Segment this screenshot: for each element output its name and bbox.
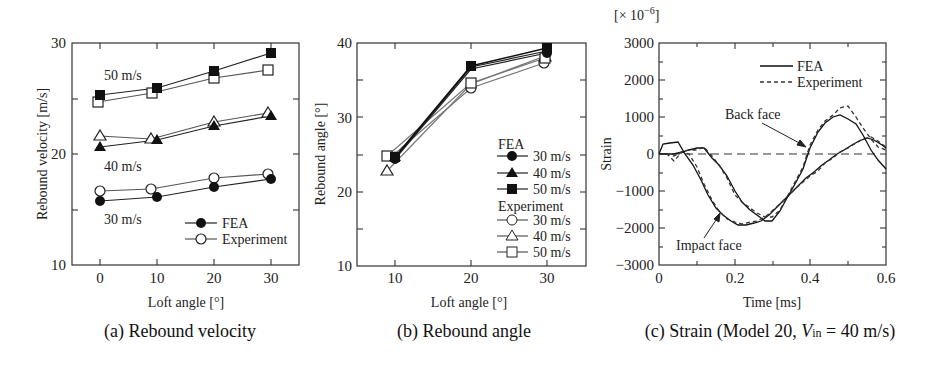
curve-fea-back-face bbox=[659, 115, 886, 221]
chart-c-unit: [× 10−6] bbox=[614, 5, 659, 23]
chart-a-xtick: 30 bbox=[264, 270, 279, 286]
chart-b-ytick: 40 bbox=[337, 35, 352, 51]
chart-c-caption: (c) Strain (Model 20, Vin = 40 m/s) bbox=[645, 321, 895, 342]
chart-c-ytick: 0 bbox=[647, 146, 655, 162]
chart-b-ytick: 10 bbox=[337, 258, 352, 274]
legend-fea: FEA bbox=[222, 216, 249, 231]
chart-c-ylabel: Strain bbox=[599, 137, 614, 170]
legend-fea-30: 30 m/s bbox=[533, 149, 571, 164]
chart-b-ytick: 20 bbox=[337, 184, 352, 200]
legend-exp-50: 50 m/s bbox=[533, 245, 571, 260]
chart-b-legend: FEA 30 m/s 40 m/s 50 m/s Experiment 30 m… bbox=[497, 137, 571, 260]
chart-a-rebound-velocity: 30 20 10 0 10 20 30 Loft angle [°] Rebou… bbox=[35, 35, 299, 342]
chart-c-xlabel: Time [ms] bbox=[743, 295, 801, 310]
chart-a-ytick: 20 bbox=[51, 146, 66, 162]
chart-a-ytick: 10 bbox=[51, 257, 66, 273]
chart-a-annotation-40: 40 m/s bbox=[104, 159, 142, 174]
chart-a-xtick: 10 bbox=[150, 270, 165, 286]
chart-c-legend: FEA Experiment bbox=[760, 59, 862, 90]
chart-b-xtick: 10 bbox=[388, 270, 403, 286]
chart-b-caption: (b) Rebound angle bbox=[397, 321, 531, 342]
chart-a-xtick: 20 bbox=[207, 270, 222, 286]
chart-a-caption: (a) Rebound velocity bbox=[104, 321, 256, 342]
chart-c-ytick: 3000 bbox=[624, 35, 654, 51]
legend-exp-40: 40 m/s bbox=[533, 229, 571, 244]
legend-experiment: Experiment bbox=[797, 75, 862, 90]
chart-c-annotation-back-face: Back face bbox=[725, 107, 781, 122]
chart-a-legend: FEA Experiment bbox=[185, 216, 287, 247]
chart-c-xtick: 0.4 bbox=[801, 270, 820, 286]
legend-fea-title: FEA bbox=[498, 137, 525, 152]
chart-b-rebound-angle: 40 30 20 10 10 20 30 Loft angle [°] Rebo… bbox=[313, 35, 586, 342]
chart-a-ylabel: Rebound velocity [m/s] bbox=[35, 88, 50, 220]
line-fea-40 bbox=[100, 116, 271, 147]
figure: 30 20 10 0 10 20 30 Loft angle [°] Rebou… bbox=[0, 0, 929, 365]
chart-a-annotation-50: 50 m/s bbox=[104, 68, 142, 83]
chart-c-ytick: −2000 bbox=[616, 220, 654, 236]
chart-c-xtick: 0.2 bbox=[726, 270, 745, 286]
legend-exp-title: Experiment bbox=[498, 199, 563, 214]
chart-c-xtick: 0 bbox=[655, 270, 663, 286]
chart-b-xtick: 20 bbox=[464, 270, 479, 286]
chart-c-ytick: −3000 bbox=[616, 257, 654, 273]
line-exp-40 bbox=[100, 113, 268, 139]
chart-c-ytick: −1000 bbox=[616, 183, 654, 199]
chart-a-xtick: 0 bbox=[96, 270, 104, 286]
legend-exp-30: 30 m/s bbox=[533, 213, 571, 228]
legend-fea-40: 40 m/s bbox=[533, 166, 571, 181]
chart-c-xtick: 0.6 bbox=[877, 270, 896, 286]
chart-b-ytick: 30 bbox=[337, 110, 352, 126]
legend-experiment: Experiment bbox=[222, 232, 287, 247]
chart-c-ytick: 1000 bbox=[624, 109, 654, 125]
legend-fea: FEA bbox=[797, 59, 824, 74]
chart-c-annotation-impact-face: Impact face bbox=[676, 238, 742, 253]
chart-b-xlabel: Loft angle [°] bbox=[431, 295, 507, 310]
legend-fea-50: 50 m/s bbox=[533, 182, 571, 197]
chart-c-curves bbox=[659, 106, 886, 225]
chart-a-annotation-30: 30 m/s bbox=[104, 212, 142, 227]
chart-a-xlabel: Loft angle [°] bbox=[148, 295, 224, 310]
chart-b-xtick: 30 bbox=[540, 270, 555, 286]
chart-c-ytick: 2000 bbox=[624, 72, 654, 88]
chart-b-ylabel: Rebound angle [°] bbox=[313, 103, 328, 206]
chart-a-ytick: 30 bbox=[51, 35, 66, 51]
chart-c-strain: [× 10−6] 3000 2000 1000 0 −1000 −2000 −3… bbox=[599, 5, 896, 342]
curve-fea-impact-face bbox=[659, 138, 886, 225]
